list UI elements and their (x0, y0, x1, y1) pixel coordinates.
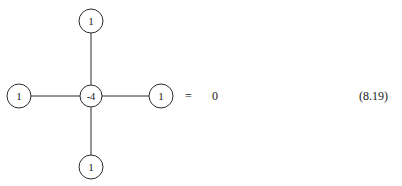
node-left: 1 (7, 84, 31, 108)
node-center-label: -4 (87, 91, 96, 102)
stencil-diagram: 1 1 -4 1 1 (0, 0, 402, 186)
node-top-label: 1 (88, 15, 94, 27)
right-hand-side-value: 0 (212, 90, 218, 102)
node-right-label: 1 (158, 90, 164, 102)
equation-number: (8.19) (359, 90, 388, 102)
node-right: 1 (149, 84, 173, 108)
figure-container: 1 1 -4 1 1 = 0 (8.19) (0, 0, 402, 186)
node-bottom-label: 1 (88, 161, 94, 173)
equals-sign: = (185, 90, 192, 102)
node-center: -4 (80, 85, 102, 107)
node-top: 1 (79, 9, 103, 33)
node-left-label: 1 (16, 90, 22, 102)
node-bottom: 1 (79, 155, 103, 179)
